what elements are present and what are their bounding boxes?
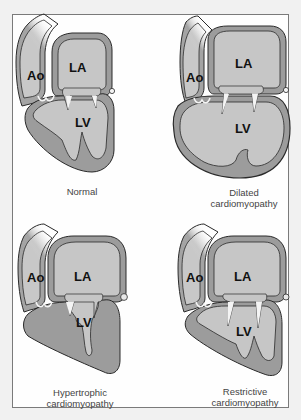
caption-normal: Normal	[27, 186, 137, 197]
heart-dilated: Ao LA LV	[173, 16, 290, 178]
label-ao: Ao	[186, 270, 203, 285]
label-ao: Ao	[27, 270, 44, 285]
cardiomyopathy-diagram: Ao LA LV Ao LA LV	[0, 0, 301, 420]
heart-normal: Ao LA LV	[16, 14, 115, 172]
label-la: LA	[234, 269, 252, 284]
label-lv: LV	[75, 115, 91, 130]
caption-line: Normal	[27, 186, 137, 197]
label-lv: LV	[76, 315, 92, 330]
label-la: LA	[74, 269, 92, 284]
label-ao: Ao	[186, 70, 203, 85]
caption-line: Dilated	[189, 187, 299, 198]
caption-line: cardiomyopathy	[189, 198, 299, 209]
heart-restrictive: Ao LA LV	[178, 224, 289, 376]
caption-dilated: Dilated cardiomyopathy	[189, 187, 299, 209]
caption-restrictive: Restrictive cardiomyopathy	[190, 386, 300, 408]
caption-line: cardiomyopathy	[190, 397, 300, 408]
label-ao: Ao	[27, 68, 44, 83]
label-lv: LV	[235, 121, 251, 136]
caption-line: Restrictive	[190, 386, 300, 397]
caption-hypertrophic: Hypertrophic cardiomyopathy	[25, 387, 135, 409]
heart-hypertrophic: Ao LA LV	[18, 224, 127, 374]
label-lv: LV	[236, 324, 252, 339]
label-la: LA	[69, 60, 87, 75]
caption-line: Hypertrophic	[25, 387, 135, 398]
caption-line: cardiomyopathy	[25, 398, 135, 409]
label-la: LA	[235, 56, 253, 71]
